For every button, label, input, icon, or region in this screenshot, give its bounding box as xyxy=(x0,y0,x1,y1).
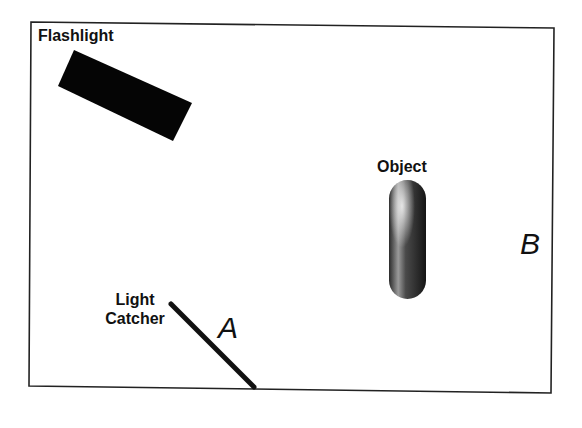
point-a-label: A xyxy=(218,313,238,343)
object-label: Object xyxy=(377,157,427,176)
light-catcher-label-line2: Catcher xyxy=(100,309,170,328)
flashlight-shape xyxy=(58,50,192,141)
light-catcher-label-line1: Light xyxy=(100,290,170,309)
object-shape xyxy=(389,180,426,299)
diagram-canvas xyxy=(0,0,582,428)
light-catcher-label: Light Catcher xyxy=(100,290,170,328)
light-catcher-shape xyxy=(171,304,254,387)
point-b-label: B xyxy=(520,229,540,259)
flashlight-label: Flashlight xyxy=(38,26,114,45)
